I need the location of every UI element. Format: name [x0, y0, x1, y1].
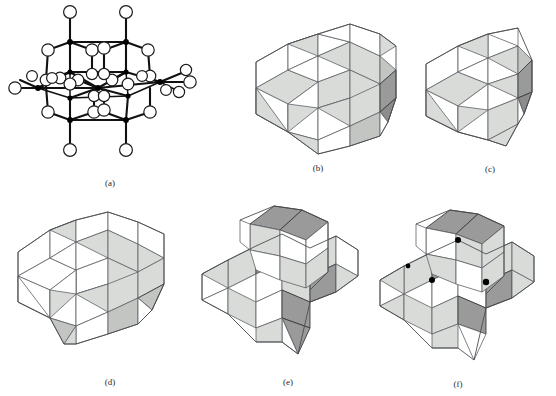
octahedron [228, 288, 310, 354]
caption-e: (e) [268, 377, 308, 387]
panel-c-structure [418, 28, 548, 156]
panel-e [198, 202, 373, 372]
panel-b-structure [248, 26, 408, 156]
panel-d-structure [12, 218, 192, 358]
panel-a [8, 2, 218, 172]
octahedron [404, 294, 486, 360]
panel-d [12, 218, 192, 358]
caption-a: (a) [90, 178, 130, 188]
caption-d: (d) [90, 377, 130, 387]
panel-f-structure [376, 204, 551, 374]
caption-b: (b) [298, 163, 338, 173]
panel-b [248, 26, 408, 156]
panel-c [418, 28, 548, 156]
caption-c: (c) [470, 164, 510, 174]
caption-f: (f) [438, 379, 478, 389]
panel-a-structure [8, 2, 218, 172]
panel-d-octahedra [18, 212, 164, 344]
figure-canvas: (a) [0, 0, 556, 396]
panel-b-octahedra [256, 24, 396, 154]
octahedron [318, 24, 350, 108]
panel-f [376, 204, 551, 374]
panel-e-structure [198, 202, 373, 372]
